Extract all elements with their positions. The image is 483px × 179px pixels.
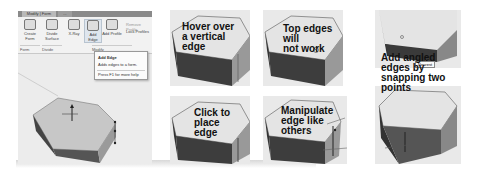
hexagon-form-3d: [375, 86, 461, 164]
step-panel-click: Click toplaceedge: [170, 96, 250, 164]
add-edge-tooltip: Add Edge Adds edges to a form. Press F1 …: [94, 51, 148, 80]
tooltip-description: Adds edges to a form.: [95, 61, 147, 68]
step-caption: Click toplaceedge: [194, 108, 230, 138]
step-caption-angled: Add anglededges bysnapping twopoints: [381, 53, 445, 93]
tooltip-title: Add Edge: [95, 54, 147, 61]
step-panel-hover: Hover overa verticaledge: [170, 10, 250, 86]
step-caption: Top edgeswillnot work: [283, 24, 332, 54]
step-panel-angled-bottom: [375, 86, 461, 164]
step-panel-top-edges: Top edgeswillnot work: [263, 10, 343, 86]
step-caption: Hover overa verticaledge: [182, 22, 234, 52]
step-panel-manipulate: Manipulateedge likeothers: [263, 96, 347, 164]
step-caption: Manipulateedge likeothers: [281, 106, 333, 136]
revit-screenshot-panel: Modify | Form ... Create Form Divide Sur…: [18, 11, 152, 164]
tooltip-help: Press F1 for more help: [95, 71, 147, 78]
hexagon-form-3d: [18, 11, 152, 164]
